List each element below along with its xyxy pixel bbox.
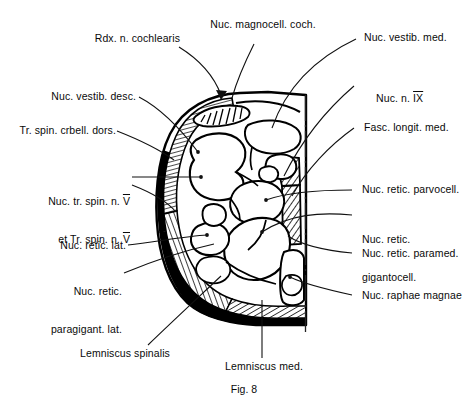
label-tr-spin-crbell-dors: Tr. spin. crbell. dors. [6,124,116,137]
label-nuc-magnocell-coch: Nuc. magnocell. coch. [198,18,328,31]
label-nuc-tr-spin-line1-text: Nuc. tr. spin. n. [48,195,123,207]
label-fasc-longit-med: Fasc. longit. med. [364,121,474,134]
label-nuc-retic-paragigant-line1: Nuc. retic. [12,285,122,298]
label-nuc-raphae-magnae: Nuc. raphae magnae [362,289,474,302]
label-nuc-vestib-desc: Nuc. vestib. desc. [16,90,136,103]
label-nuc-retic-paragigant-line2: paragigant. lat. [12,323,122,336]
label-nuc-n-ix-text: Nuc. n. [376,92,413,104]
nuc-retic-paragigant-lat-outline [196,256,230,283]
label-nuc-retic-parvocell: Nuc. retic. parvocell. [362,183,474,196]
nuc-n-ix-small-outline [259,166,278,182]
label-lemniscus-med: Lemniscus med. [204,360,324,373]
label-nuc-vestib-med: Nuc. vestib. med. [364,31,474,44]
nuc-retic-lat-outline [191,223,229,255]
nerve-rootlet-oval [202,204,226,226]
figure-container: Rdx. n. cochlearis Nuc. magnocell. coch.… [0,0,474,409]
label-rdx-n-cochlearis: Rdx. n. cochlearis [60,32,180,45]
label-nuc-tr-spin-line1-roman: V [123,195,130,207]
label-nuc-n-ix-roman: IX [413,92,423,104]
label-nuc-retic-lat: Nuc. retic. lat. [18,239,126,252]
label-nuc-retic-paramed: Nuc. retic. paramed. [362,247,474,260]
label-nuc-retic-gigantocell-line2: gigantocell. [362,271,474,284]
figure-caption: Fig. 8 [214,383,274,395]
label-nuc-n-ix: Nuc. n. IX [364,79,474,117]
label-nuc-tr-spin-n-v: Nuc. tr. spin. n. V et Tr. spin. n. V [8,170,130,270]
label-nuc-tr-spin-line1: Nuc. tr. spin. n. V [8,195,130,208]
label-lemniscus-spinalis: Lemniscus spinalis [80,347,210,360]
label-nuc-retic-paragigant-lat: Nuc. retic. paragigant. lat. [12,260,122,360]
label-nuc-retic-gigantocell-line1: Nuc. retic. [362,233,474,246]
